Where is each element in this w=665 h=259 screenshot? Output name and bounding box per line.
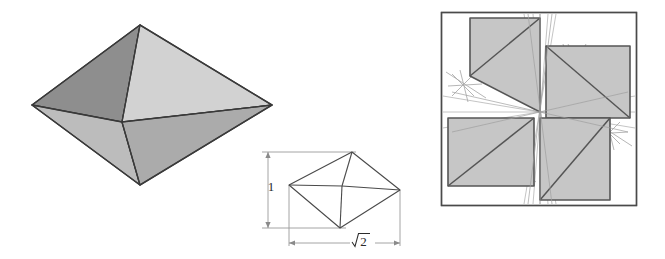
arrow-vertical-top xyxy=(265,152,270,158)
pinwheel-quad-top-right xyxy=(546,46,630,118)
arrow-horizontal-left xyxy=(289,240,295,245)
wireframe-edge-center-apex xyxy=(342,152,352,186)
dimension-arrowheads xyxy=(265,152,400,246)
wireframe-outline xyxy=(289,152,400,228)
dimension-label-width-group: 2 xyxy=(352,234,370,250)
dimension-lines xyxy=(262,152,400,246)
wireframe-edge-center-left xyxy=(289,185,342,186)
pinwheel-quad-bottom-left xyxy=(448,118,534,186)
wireframe-edge-center-bottom xyxy=(340,186,342,228)
arrow-horizontal-right xyxy=(394,240,400,245)
composite-figure-svg: 1 2 xyxy=(0,0,665,259)
wireframe-edges xyxy=(289,152,400,228)
arrow-vertical-bottom xyxy=(265,222,270,228)
solid-octahedron-figure xyxy=(32,25,272,185)
wireframe-octahedron-figure: 1 2 xyxy=(262,152,400,249)
figure-root: 1 2 xyxy=(0,0,665,259)
pinwheel-quad-bottom-right xyxy=(540,118,610,200)
wireframe-edge-center-right xyxy=(342,186,400,190)
dimension-label-width-value: 2 xyxy=(360,234,367,249)
square-dissection-figure xyxy=(442,13,637,206)
dimension-label-height: 1 xyxy=(268,179,275,194)
